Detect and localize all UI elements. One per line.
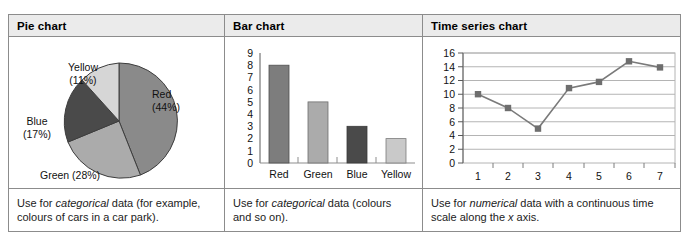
svg-text:Green: Green	[303, 168, 332, 180]
svg-text:0: 0	[449, 157, 455, 169]
caption-cell-pie-chart: Use for categorical data (for example, c…	[9, 189, 224, 231]
svg-text:2: 2	[247, 132, 253, 144]
table-caption-row: Use for categorical data (for example, c…	[9, 189, 680, 231]
time-series-y-axis-labels: 16 14 12 10 8 6 4 2 0	[443, 47, 455, 169]
svg-text:2: 2	[505, 170, 511, 182]
svg-text:Red: Red	[269, 168, 288, 180]
svg-text:7: 7	[247, 71, 253, 83]
svg-text:5: 5	[247, 96, 253, 108]
svg-text:4: 4	[449, 129, 455, 141]
svg-text:6: 6	[626, 170, 632, 182]
svg-text:9: 9	[247, 47, 253, 59]
svg-text:12: 12	[443, 74, 455, 86]
table-chart-row: Yellow (11%) Red (44%) Blue (17%) Green …	[9, 37, 680, 189]
svg-text:10: 10	[443, 88, 455, 100]
time-series-chart-caption: Use for numerical data with a continuous…	[423, 189, 680, 224]
caption-cell-time-series-chart: Use for numerical data with a continuous…	[422, 189, 680, 231]
svg-text:16: 16	[443, 47, 455, 59]
svg-text:Yellow: Yellow	[381, 168, 411, 180]
time-series-chart-cell: 16 14 12 10 8 6 4 2 0	[422, 37, 680, 189]
pie-chart-caption: Use for categorical data (for example, c…	[9, 189, 224, 224]
time-series-chart: 16 14 12 10 8 6 4 2 0	[423, 37, 680, 188]
time-series-chart-graphic: 16 14 12 10 8 6 4 2 0	[429, 45, 680, 185]
header-cell-time-series-chart: Time series chart	[422, 15, 680, 37]
time-series-point-4	[566, 85, 572, 91]
pie-label-green: Green (28%)	[40, 169, 100, 182]
svg-text:8: 8	[247, 59, 253, 71]
bar-green	[308, 102, 328, 163]
svg-text:4: 4	[566, 170, 572, 182]
svg-text:4: 4	[247, 108, 253, 120]
svg-text:0: 0	[247, 157, 253, 169]
time-series-x-axis-labels: 1 2 3 4 5 6 7	[475, 170, 663, 182]
bar-chart-graphic: 9 8 7 6 5 4 3 2 1 0	[231, 45, 417, 185]
time-series-point-7	[657, 64, 663, 70]
svg-text:1: 1	[475, 170, 481, 182]
header-cell-bar-chart: Bar chart	[224, 15, 422, 37]
time-series-point-3	[535, 125, 541, 131]
chart-types-table-figure: Pie chart Bar chart Time series chart	[0, 0, 690, 246]
time-series-chart-title: Time series chart	[423, 20, 527, 32]
svg-text:2: 2	[449, 143, 455, 155]
bar-red	[269, 65, 289, 163]
time-series-x-axis-ticks	[493, 163, 675, 168]
svg-text:1: 1	[247, 145, 253, 157]
bar-chart-title: Bar chart	[225, 20, 284, 32]
bar-chart-cell: 9 8 7 6 5 4 3 2 1 0	[224, 37, 422, 189]
pie-label-red: Red (44%)	[152, 88, 180, 113]
svg-text:14: 14	[443, 61, 455, 73]
svg-text:3: 3	[247, 120, 253, 132]
pie-label-yellow: Yellow (11%)	[68, 61, 98, 86]
time-series-point-1	[475, 91, 481, 97]
svg-text:Blue: Blue	[346, 168, 367, 180]
pie-chart: Yellow (11%) Red (44%) Blue (17%) Green …	[9, 37, 224, 188]
svg-text:7: 7	[657, 170, 663, 182]
bar-yellow	[386, 139, 406, 163]
svg-text:6: 6	[247, 84, 253, 96]
pie-label-blue: Blue (17%)	[23, 115, 51, 140]
caption-cell-bar-chart: Use for categorical data (colours and so…	[224, 189, 422, 231]
time-series-point-5	[596, 79, 602, 85]
bar-x-axis-labels: Red Green Blue Yellow	[269, 168, 411, 180]
time-series-y-axis-ticks	[458, 53, 463, 163]
pie-chart-cell: Yellow (11%) Red (44%) Blue (17%) Green …	[9, 37, 224, 189]
svg-text:6: 6	[449, 116, 455, 128]
table-header-row: Pie chart Bar chart Time series chart	[9, 15, 680, 37]
bar-blue	[347, 126, 367, 163]
svg-text:3: 3	[535, 170, 541, 182]
bar-y-axis-labels: 9 8 7 6 5 4 3 2 1 0	[247, 47, 253, 169]
pie-chart-title: Pie chart	[9, 20, 66, 32]
bar-chart-caption: Use for categorical data (colours and so…	[225, 189, 422, 224]
comparison-table: Pie chart Bar chart Time series chart	[8, 14, 681, 232]
svg-text:5: 5	[596, 170, 602, 182]
svg-text:8: 8	[449, 102, 455, 114]
bar-chart: 9 8 7 6 5 4 3 2 1 0	[225, 37, 422, 188]
header-cell-pie-chart: Pie chart	[9, 15, 224, 37]
time-series-point-6	[626, 58, 632, 64]
time-series-point-2	[505, 105, 511, 111]
